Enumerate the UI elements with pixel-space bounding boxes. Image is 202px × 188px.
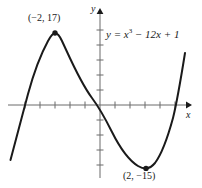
equation-tail: − 12x + 1 bbox=[132, 28, 179, 40]
local-minimum-label: (2, −15) bbox=[123, 171, 155, 181]
equation-label: y = x3 − 12x + 1 bbox=[106, 28, 179, 40]
function-graph-figure: (−2, 17) (2, −15) y = x3 − 12x + 1 y x bbox=[0, 0, 202, 188]
cubic-curve bbox=[11, 33, 186, 168]
y-axis-label: y bbox=[91, 4, 95, 14]
x-axis-label: x bbox=[186, 110, 190, 120]
x-axis-arrowhead bbox=[186, 102, 192, 109]
equation-base: y = x bbox=[106, 28, 129, 40]
local-maximum-point bbox=[52, 30, 57, 35]
local-maximum-label: (−2, 17) bbox=[28, 13, 60, 23]
y-axis-arrowhead bbox=[97, 8, 104, 14]
